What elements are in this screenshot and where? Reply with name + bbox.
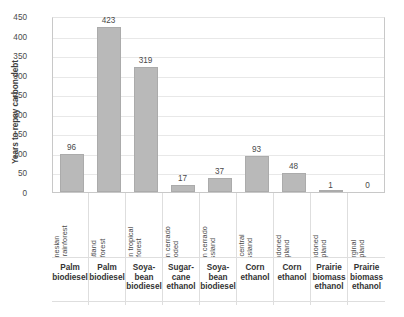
bar-value-label: 319 — [139, 56, 153, 65]
y-tick-label: 50 — [0, 170, 27, 178]
fuel-type-label: Prairie biomass ethanol — [348, 258, 385, 305]
land-type-label: Brazilian cerrado grassland — [201, 225, 218, 258]
bar-column: 423 — [90, 18, 127, 192]
land-type-cell: USA central grassland — [237, 193, 273, 258]
fuel-type-label: Corn ethanol — [237, 258, 273, 305]
bar-value-label: 0 — [365, 181, 370, 190]
bar — [319, 190, 343, 192]
fuel-type-label: Prairie biomass ethanol — [311, 258, 347, 305]
land-type-label: Brazilian cerrado wooded — [164, 225, 181, 258]
land-type-label: Marginal cropland — [350, 225, 367, 258]
bar — [171, 185, 195, 192]
land-type-label: Indonesian tropical rainforest — [53, 225, 70, 258]
bar-value-label: 423 — [102, 16, 116, 25]
land-type-cell: Marginal cropland — [348, 193, 385, 258]
y-tick-label: 250 — [0, 92, 27, 100]
bar-value-label: 93 — [252, 145, 261, 154]
y-tick-label: 450 — [0, 14, 27, 22]
bar-value-label: 48 — [289, 162, 298, 171]
y-tick-label: 350 — [0, 53, 27, 61]
plot-area: 4504003503002502001501005009642331917379… — [52, 17, 385, 193]
land-type-cell: Abandoned cropland — [274, 193, 310, 258]
bar-column: 93 — [238, 18, 275, 192]
bar-column: 17 — [164, 18, 201, 192]
bar-column: 0 — [349, 18, 386, 192]
fuel-type-label: Soya-bean biodiesel — [126, 258, 162, 305]
land-type-label: USA central grassland — [238, 225, 255, 258]
x-axis-column: Indonesian peatland rainforestPalm biodi… — [89, 193, 126, 305]
land-type-cell: Brazilian cerrado wooded — [163, 193, 199, 258]
bar — [282, 173, 306, 192]
fuel-type-label: Corn ethanol — [274, 258, 310, 305]
x-axis-column: Brazilian cerrado grasslandSoya-bean bio… — [200, 193, 237, 305]
bar-value-label: 17 — [178, 174, 187, 183]
bar-value-label: 37 — [215, 167, 224, 176]
y-tick-label: 150 — [0, 131, 27, 139]
fuel-type-label: Palm biodiesel — [89, 258, 125, 305]
fuel-type-label: Sugar-cane ethanol — [163, 258, 199, 305]
land-type-cell: Abandoned cropland — [311, 193, 347, 258]
x-axis-column: Brazilian tropical rainforestSoya-bean b… — [126, 193, 163, 305]
land-type-label: Brazilian tropical rainforest — [127, 225, 144, 258]
bar — [245, 156, 269, 192]
land-type-cell: Indonesian tropical rainforest — [52, 193, 88, 258]
bar-column: 37 — [201, 18, 238, 192]
y-tick-label: 200 — [0, 112, 27, 120]
y-tick-label: 100 — [0, 151, 27, 159]
bar-value-label: 96 — [67, 143, 76, 152]
y-tick-label: 0 — [0, 190, 27, 198]
bar-column: 1 — [312, 18, 349, 192]
x-axis-column: USA central grasslandCorn ethanol — [237, 193, 274, 305]
y-tick-label: 300 — [0, 73, 27, 81]
x-axis-column: Indonesian tropical rainforestPalm biodi… — [52, 193, 89, 305]
bar — [208, 178, 232, 192]
bar-column: 319 — [127, 18, 164, 192]
land-type-cell: Indonesian peatland rainforest — [89, 193, 125, 258]
bar — [97, 27, 121, 192]
bar — [60, 154, 84, 192]
fuel-type-label: Palm biodiesel — [52, 258, 88, 305]
land-type-cell: Brazilian tropical rainforest — [126, 193, 162, 258]
land-type-label: Abandoned cropland — [312, 225, 329, 258]
x-axis-column: Abandoned croplandCorn ethanol — [274, 193, 311, 305]
land-type-label: Indonesian peatland rainforest — [89, 225, 107, 258]
x-axis-table-bottom-border — [52, 301, 385, 302]
bar-column: 96 — [53, 18, 90, 192]
x-axis-column: Marginal croplandPrairie biomass ethanol — [348, 193, 385, 305]
x-axis-column: Abandoned croplandPrairie biomass ethano… — [311, 193, 348, 305]
land-type-cell: Brazilian cerrado grassland — [200, 193, 236, 258]
x-axis-column: Brazilian cerrado woodedSugar-cane ethan… — [163, 193, 200, 305]
land-type-label: Abandoned cropland — [275, 225, 292, 258]
bar-column: 48 — [275, 18, 312, 192]
fuel-type-label: Soya-bean biodiesel — [200, 258, 236, 305]
y-tick-label: 400 — [0, 34, 27, 42]
bar — [134, 67, 158, 192]
bar-value-label: 1 — [328, 181, 333, 190]
x-axis-category-table: Indonesian tropical rainforestPalm biodi… — [52, 193, 385, 305]
carbon-debt-bar-chart: Years to repay carbon debt 4504003503002… — [0, 0, 404, 317]
